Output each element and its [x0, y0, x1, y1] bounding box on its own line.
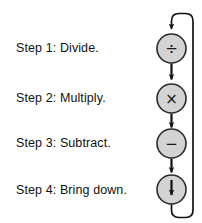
step-label-subtract: Step 3: Subtract.: [16, 136, 152, 150]
divide-icon: ÷: [165, 40, 178, 58]
subtract-icon: −: [165, 135, 178, 153]
multiply-icon: ×: [165, 90, 178, 108]
long-division-flowchart: ÷ × − Step 1: Divide. Step 2: Multiply. …: [0, 0, 202, 223]
step-label-multiply: Step 2: Multiply.: [16, 91, 152, 105]
step-label-bring-down: Step 4: Bring down.: [16, 183, 152, 197]
step-label-divide: Step 1: Divide.: [16, 41, 152, 55]
